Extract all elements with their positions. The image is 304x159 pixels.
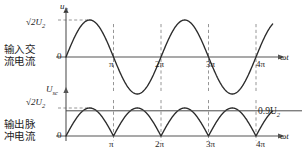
- y-axis-label-bottom: Usc: [46, 84, 58, 96]
- waveform-figure: 输入交 流电流 输出脉 冲电流 u2 √2U2 0 ωt π 2π 3π 4π …: [0, 0, 304, 159]
- panel-input-ac-waveform: [56, 7, 285, 94]
- x-tick-bottom-3pi: 3π: [206, 139, 215, 149]
- side-label-output: 输出脉 冲电流: [4, 118, 35, 142]
- x-axis-label-bottom: ωt: [280, 131, 289, 141]
- x-tick-top-2pi: 2π: [155, 59, 164, 69]
- side-label-input-line1: 输入交: [4, 43, 35, 55]
- y-tick-label-top: √2U2: [26, 17, 45, 29]
- x-tick-bottom-4pi: 4π: [256, 139, 265, 149]
- level-label-09u2: 0.9U2: [258, 106, 280, 118]
- x-tick-top-3pi: 3π: [206, 59, 215, 69]
- side-label-input: 输入交 流电流: [4, 43, 35, 67]
- y-tick-label-bottom-text: √2U: [26, 97, 42, 107]
- y-axis-label-top: u2: [60, 1, 68, 13]
- side-label-input-line2: 流电流: [4, 55, 35, 67]
- level-label-text: 0.9U: [258, 106, 277, 116]
- x-tick-top-pi: π: [109, 59, 114, 69]
- waveform-curve-output-pulsating-waveform: [66, 108, 273, 136]
- x-tick-bottom-pi: π: [109, 139, 114, 149]
- origin-label-top: 0: [57, 51, 62, 61]
- y-tick-label-bottom-sub: 2: [42, 102, 45, 109]
- y-tick-label-bottom: √2U2: [26, 97, 45, 109]
- side-label-output-line2: 冲电流: [4, 130, 35, 142]
- origin-label-bottom: 0: [57, 130, 62, 140]
- side-label-output-line1: 输出脉: [4, 118, 35, 130]
- y-axis-arrow: [63, 87, 68, 93]
- x-tick-bottom-2pi: 2π: [155, 139, 164, 149]
- x-tick-top-4pi: 4π: [256, 59, 265, 69]
- y-axis-label-bottom-sub: sc: [53, 89, 58, 96]
- y-tick-label-top-sub: 2: [42, 22, 45, 29]
- level-label-sub: 2: [277, 111, 280, 118]
- y-axis-label-top-sub: 2: [65, 6, 68, 13]
- y-tick-label-top-text: √2U: [26, 17, 42, 27]
- x-axis-label-top: ωt: [280, 52, 289, 62]
- waveform-canvas: [0, 0, 304, 159]
